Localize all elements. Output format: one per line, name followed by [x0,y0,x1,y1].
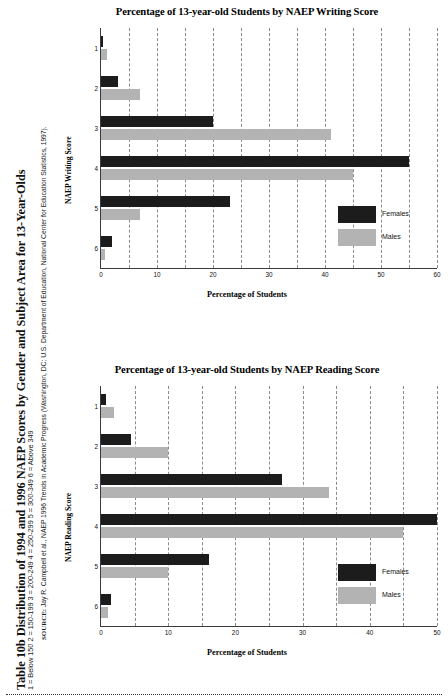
x-tick-label: 40 [366,629,373,636]
gridline [213,28,214,268]
chart-writing: Percentage of 13-year-old Students by NA… [46,6,448,316]
x-tick-label: 0 [99,629,103,636]
legend-swatch [338,229,376,246]
y-tick-label: 6 [84,603,98,610]
legend-label: Females [382,568,409,575]
bar [101,129,331,140]
gridline [325,28,326,268]
x-tick-label: 0 [99,271,103,278]
chart-reading-ylabel: NAEP Reading Score [64,493,73,562]
bar [101,407,114,418]
footer-dotted-rule [6,690,442,695]
bar [101,209,140,220]
bar [101,474,282,485]
bar [101,116,213,127]
legend-swatch [338,206,376,223]
x-tick-label: 20 [209,271,216,278]
x-tick-label: 60 [433,271,440,278]
y-tick-label: 4 [84,523,98,530]
y-tick-label: 4 [84,165,98,172]
bar [101,447,168,458]
gridline [135,386,136,626]
y-tick-label: 5 [84,563,98,570]
bar [101,169,353,180]
gridline [235,386,236,626]
left-caption-rail: Table 10b Distribution of 1994 and 1996 … [0,0,46,697]
x-tick-label: 10 [165,629,172,636]
x-tick-label: 30 [265,271,272,278]
y-tick-label: 1 [84,403,98,410]
legend-label: Males [382,233,401,240]
bar [101,527,403,538]
bar [101,567,168,578]
chart-reading-xlabel: Percentage of Students [46,648,448,657]
y-tick-label: 6 [84,245,98,252]
legend-label: Males [382,591,401,598]
chart-writing-title: Percentage of 13-year-old Students by NA… [46,6,448,17]
bar [101,394,106,405]
bar [101,434,131,445]
bar [101,76,118,87]
gridline [168,386,169,626]
x-tick-label: 50 [433,629,440,636]
gridline [241,28,242,268]
bar [101,514,437,525]
bar [101,89,140,100]
y-tick-label: 2 [84,85,98,92]
gridline [269,386,270,626]
bar [101,196,230,207]
chart-reading-title: Percentage of 13-year-old Students by NA… [46,364,448,375]
bar [101,236,112,247]
gridline [437,28,438,268]
gridline [303,386,304,626]
y-tick-label: 1 [84,45,98,52]
y-tick-label: 2 [84,443,98,450]
gridline [157,28,158,268]
table-subtitle: 1 = Below 150 2 = 150-199 3 = 200-249 4 … [26,430,35,690]
gridline [297,28,298,268]
bar [101,554,209,565]
legend-label: Females [382,210,409,217]
gridline [437,386,438,626]
bar [101,49,107,60]
y-tick-label: 3 [84,483,98,490]
chart-reading: Percentage of 13-year-old Students by NA… [46,364,448,674]
gridline [129,28,130,268]
gridline [403,386,404,626]
x-tick-label: 10 [153,271,160,278]
x-tick-label: 40 [321,271,328,278]
y-tick-label: 5 [84,205,98,212]
bar [101,607,108,618]
chart-writing-xlabel: Percentage of Students [46,290,448,299]
bar [101,487,329,498]
gridline [185,28,186,268]
y-tick-label: 3 [84,125,98,132]
gridline [409,28,410,268]
bar [101,156,409,167]
x-tick-label: 20 [232,629,239,636]
gridline [381,28,382,268]
bar [101,249,105,260]
bar [101,36,103,47]
legend-swatch [338,564,376,581]
legend-swatch [338,587,376,604]
gridline [202,386,203,626]
x-tick-label: 30 [299,629,306,636]
bar [101,594,111,605]
chart-writing-ylabel: NAEP Writing Score [64,136,73,204]
x-tick-label: 50 [377,271,384,278]
gridline [269,28,270,268]
page-root: Table 10b Distribution of 1994 and 1996 … [0,0,448,697]
